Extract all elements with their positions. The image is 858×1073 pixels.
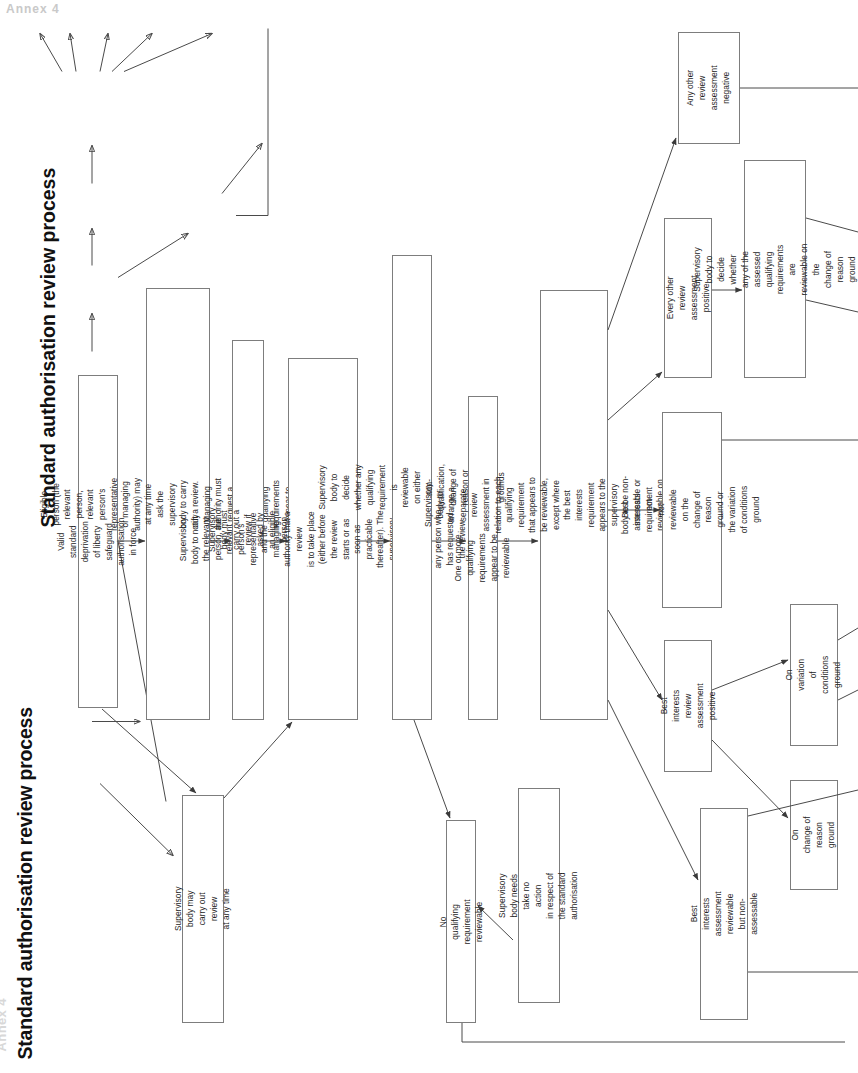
node-label: One or more qualifying requirements appe… [453,533,513,582]
node-best-interests-review-positive[interactable]: Best interests review assessment positiv… [664,640,712,772]
node-sb-no-action[interactable]: Supervisory body needs take no action in… [518,788,560,1003]
node-best-interests-not-reviewable[interactable]: Best interests requirement not reviewabl… [662,412,722,608]
node-sb-notify-parties[interactable]: Supervisory body to notify the relevant … [288,358,358,720]
node-on-change-of-reason[interactable]: On change of reason ground [790,780,838,890]
node-one-or-more-reviewable[interactable]: One or more qualifying requirements appe… [468,396,498,720]
node-layer: Valid standard deprivation of liberty sa… [0,0,858,1073]
page-crumb: Annex 4 [6,2,60,16]
node-label: No qualifying requirement reviewable [437,899,485,944]
node-label: Any other review assessment negative [685,62,733,114]
node-label: Best interests review assessment positiv… [658,684,718,729]
node-best-interests-non-assessable[interactable]: Best interests assessment reviewable but… [700,808,748,1020]
node-sb-arrange-assessments[interactable]: Supervisory body to arrange a separate r… [540,290,608,720]
node-any-other-review-negative[interactable]: Any other review assessment negative [678,32,740,144]
node-sb-decide-change-of-reason[interactable]: Supervisory body to decide whether any o… [744,160,806,378]
node-valid-authorisation[interactable]: Valid standard deprivation of liberty sa… [78,375,118,708]
node-label: On variation of conditions ground [784,656,844,694]
node-label: On change of reason ground [790,816,838,854]
node-every-other-review-positive[interactable]: Every other review assessment positive [664,218,712,378]
node-label: Supervisory body to decide whether any o… [692,243,858,295]
node-sb-may-carry-out-review[interactable]: Supervisory body may carry out review at… [182,795,224,1023]
node-label: Best interests requirement not reviewabl… [620,485,763,535]
node-eligible-person-request[interactable]: Eligible person (the relevant person, re… [146,288,210,720]
node-no-requirement-reviewable[interactable]: No qualifying requirement reviewable [446,820,476,1023]
page-title: Standard authorisation review process [37,168,60,528]
node-label: Supervisory body needs take no action in… [497,871,580,919]
node-on-variation-of-conditions[interactable]: On variation of conditions ground [790,604,838,746]
node-label: Supervisory body may carry out review at… [173,887,233,931]
node-label: Best interests assessment reviewable but… [688,892,760,937]
